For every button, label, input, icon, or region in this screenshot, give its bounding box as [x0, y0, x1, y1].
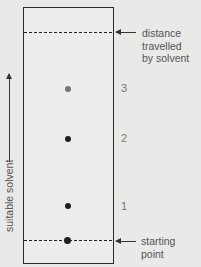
spot-3: [65, 86, 71, 92]
start-arrow: [116, 241, 136, 242]
solvent-front-arrow: [116, 32, 136, 33]
label-line: travelled: [142, 40, 189, 53]
spot-label-1: 1: [121, 200, 127, 212]
start-spot: [64, 237, 71, 244]
spot-label-2: 2: [121, 132, 127, 144]
label-line: distance: [142, 27, 189, 40]
start-label: starting point: [141, 235, 201, 260]
spot-2: [65, 136, 71, 142]
direction-label: suitable solvent: [3, 160, 15, 232]
spot-1: [65, 203, 71, 209]
direction-arrow: [9, 74, 10, 162]
spot-label-3: 3: [121, 82, 127, 94]
solvent-front-line: [24, 32, 112, 33]
label-line: by solvent: [142, 52, 189, 65]
solvent-front-label: distance travelled by solvent: [142, 27, 189, 65]
